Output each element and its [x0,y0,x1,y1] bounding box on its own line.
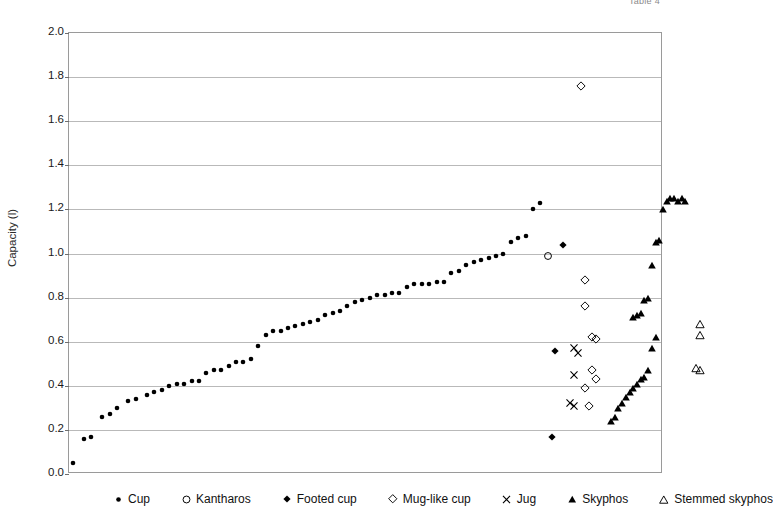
data-point-filled-circle [126,399,131,404]
data-point-filled-circle [133,397,138,402]
data-point-filled-circle [286,326,291,331]
legend-item: Jug [501,492,536,506]
y-axis-tick-mark [65,121,69,122]
data-point-cross-x [569,401,578,410]
data-point-filled-circle [456,269,461,274]
y-axis-tick-mark [65,165,69,166]
data-point-filled-diamond [559,241,567,249]
gridline [69,165,661,166]
data-point-open-diamond [580,383,590,393]
data-point-filled-diamond [548,433,556,441]
data-point-filled-circle [352,300,357,305]
data-point-filled-circle [323,313,328,318]
data-point-filled-circle [159,388,164,393]
data-point-filled-circle [152,390,157,395]
data-point-filled-triangle [610,413,619,421]
y-axis-tick-labels: 0.00.20.40.60.81.01.21.41.61.82.0 [20,0,64,525]
data-point-filled-triangle [648,261,657,269]
data-point-filled-triangle [655,236,664,244]
gridline [69,430,661,431]
data-point-filled-circle [211,368,216,373]
data-point-filled-circle [382,293,387,298]
data-point-cross-x [569,370,578,379]
data-point-filled-circle [479,258,484,263]
cross-x-icon [501,493,513,505]
data-point-filled-circle [441,280,446,285]
y-axis-tick-label: 1.6 [24,114,64,126]
data-point-filled-circle [338,308,343,313]
data-point-filled-circle [293,324,298,329]
legend-item: Cup [112,492,150,506]
gridline [69,121,661,122]
y-axis-tick-label: 1.4 [24,159,64,171]
data-point-filled-circle [107,412,112,417]
data-point-open-diamond [577,81,587,91]
data-point-filled-circle [100,414,105,419]
gridline [69,342,661,343]
data-point-filled-circle [360,297,365,302]
data-point-filled-circle [397,291,402,296]
data-point-open-diamond [591,374,601,384]
chart-legend: Cup Kantharos Footed cup Mug-like cup Ju… [0,487,666,511]
gridline [69,298,661,299]
data-point-open-circle [543,251,552,260]
data-point-filled-circle [389,291,394,296]
data-point-filled-circle [89,434,94,439]
data-point-filled-circle [226,363,231,368]
data-point-filled-triangle [681,197,690,205]
data-point-filled-circle [248,357,253,362]
data-point-filled-circle [167,383,172,388]
data-point-filled-circle [300,322,305,327]
data-point-filled-circle [449,271,454,276]
data-point-filled-circle [471,260,476,265]
legend-item-label: Skyphos [582,492,628,506]
data-point-filled-circle [434,280,439,285]
data-point-filled-circle [308,319,313,324]
open-diamond-icon [387,493,399,505]
y-axis-title: Capacity (l) [6,209,18,267]
y-axis-tick-mark [65,209,69,210]
y-axis-tick-mark [65,474,69,475]
y-axis-tick-label: 1.2 [24,203,64,215]
gridline [69,209,661,210]
data-point-filled-circle [263,333,268,338]
y-axis-tick-label: 0.0 [24,467,64,479]
legend-item: Skyphos [566,492,628,506]
data-point-filled-triangle [651,333,660,341]
data-point-filled-circle [412,282,417,287]
y-axis-tick-mark [65,77,69,78]
y-axis-tick-mark [65,342,69,343]
gridline [69,254,661,255]
data-point-filled-circle [493,253,498,258]
legend-item-label: Footed cup [297,492,357,506]
data-point-filled-circle [204,370,209,375]
data-point-filled-circle [278,328,283,333]
y-axis-tick-mark [65,430,69,431]
data-point-filled-circle [486,255,491,260]
data-point-filled-circle [464,262,469,267]
data-point-filled-circle [241,359,246,364]
y-axis-tick-mark [65,254,69,255]
filled-circle-icon [112,493,124,505]
data-point-filled-circle [196,379,201,384]
data-point-open-triangle [695,320,705,329]
y-axis-tick-label: 0.6 [24,335,64,347]
legend-item: Stemmed skyphos [658,492,773,506]
data-point-filled-circle [174,381,179,386]
legend-item-label: Cup [128,492,150,506]
gridline [69,77,661,78]
data-point-filled-circle [523,233,528,238]
data-point-filled-circle [375,293,380,298]
y-axis-tick-label: 0.2 [24,423,64,435]
gridline [69,386,661,387]
data-point-open-diamond [591,335,601,345]
legend-item-label: Kantharos [196,492,251,506]
data-point-filled-circle [144,392,149,397]
data-point-filled-circle [367,295,372,300]
data-point-filled-circle [271,328,276,333]
data-point-filled-circle [330,311,335,316]
y-axis-tick-label: 0.4 [24,379,64,391]
data-point-filled-circle [531,207,536,212]
legend-item: Kantharos [180,492,251,506]
